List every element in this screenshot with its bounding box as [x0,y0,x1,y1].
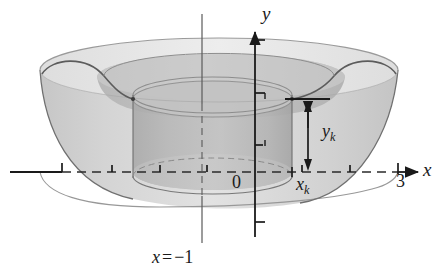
x-axis-label: x [423,160,431,179]
axis-of-revolution-caption: x=−1 [152,248,193,266]
solid-of-revolution-illustration [0,0,439,278]
shell-height-base: y [322,121,330,141]
shell-height-label: yk [322,122,335,143]
shell-radius-subscript: k [304,183,309,197]
axis-caption-value: −1 [174,247,193,267]
figure-container: y x 0 3 xk yk x=−1 [0,0,439,278]
cylindrical-shell-element [133,77,292,194]
shell-radius-label: xk [296,175,309,196]
x-tick-label-3: 3 [396,172,405,190]
shell-radius-base: x [296,174,304,194]
origin-label: 0 [232,173,241,191]
axis-caption-var: x [152,247,160,267]
axis-caption-equals: = [160,247,174,267]
shell-height-subscript: k [330,130,335,144]
y-axis-label: y [262,4,270,23]
